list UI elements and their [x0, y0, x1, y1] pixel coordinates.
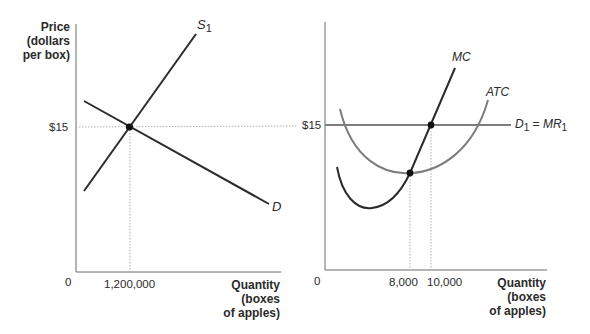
left-origin: 0 — [65, 275, 71, 289]
left-quantity-tick: 1,200,000 — [104, 277, 155, 291]
left-y-axis-title: Price (dollars per box) — [12, 20, 70, 62]
x-title-line-1: Quantity — [466, 276, 546, 290]
right-quantity-tick-8000: 8,000 — [389, 275, 418, 289]
demand-label: D — [272, 200, 281, 214]
y-title-line-1: Price — [12, 20, 70, 34]
x-title-line-1: Quantity — [200, 278, 280, 292]
right-price-tick: $15 — [302, 118, 321, 132]
right-x-axis-title: Quantity (boxes of apples) — [466, 276, 546, 318]
profit-max-point — [428, 122, 435, 129]
supply-label: S1 — [197, 18, 212, 32]
y-title-line-3: per box) — [12, 48, 70, 62]
d1-main: D — [515, 117, 524, 131]
mc-curve — [337, 68, 455, 208]
equals-sign: = — [529, 117, 543, 131]
demand-mr-label: D1 = MR1 — [515, 117, 567, 132]
mc-label: MC — [452, 50, 471, 64]
y-title-line-2: (dollars — [12, 34, 70, 48]
right-origin: 0 — [314, 274, 320, 288]
right-chart — [325, 22, 547, 270]
d1-sub: 1 — [524, 122, 530, 133]
supply-label-main: S — [197, 17, 206, 32]
x-title-line-2: (boxes — [200, 292, 280, 306]
left-price-tick: $15 — [49, 120, 68, 134]
supply-label-sub: 1 — [206, 22, 212, 34]
supply-curve — [84, 34, 196, 191]
market-equilibrium-point — [126, 123, 133, 130]
left-x-axis-title: Quantity (boxes of apples) — [200, 278, 280, 320]
atc-label: ATC — [486, 85, 509, 99]
mr1-main: MR — [543, 117, 562, 131]
mr1-sub: 1 — [562, 122, 568, 133]
left-chart — [76, 24, 298, 272]
x-title-line-3: of apples) — [466, 304, 546, 318]
x-title-line-3: of apples) — [200, 306, 280, 320]
x-title-line-2: (boxes — [466, 290, 546, 304]
left-price-guide — [76, 126, 298, 127]
right-quantity-tick-10000: 10,000 — [427, 275, 462, 289]
min-atc-point — [407, 170, 414, 177]
